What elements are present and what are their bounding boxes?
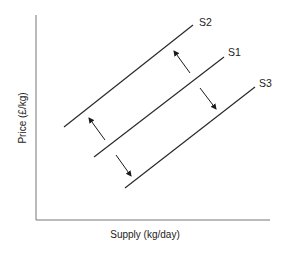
label-s2: S2: [199, 16, 212, 28]
label-s1: S1: [228, 46, 241, 58]
supply-curve-s3: [125, 87, 255, 188]
supply-curve-s2: [64, 25, 193, 127]
supply-curve-s1: [94, 57, 224, 157]
arrow-up-left-icon: [174, 51, 190, 73]
diagram-canvas: S2 S1 S3 Supply (kg/day) Price (£/kg): [0, 0, 287, 253]
x-axis-label: Supply (kg/day): [110, 229, 179, 240]
y-axis-label: Price (£/kg): [17, 92, 28, 143]
arrow-down-right-icon: [116, 155, 131, 176]
supply-shift-diagram: S2 S1 S3 Supply (kg/day) Price (£/kg): [0, 0, 287, 253]
arrow-down-right-icon: [200, 88, 216, 109]
arrow-up-left-icon: [89, 118, 105, 140]
label-s3: S3: [259, 77, 272, 89]
